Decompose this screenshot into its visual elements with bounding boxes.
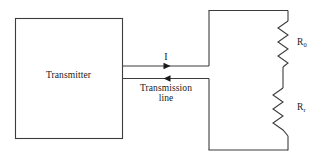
current-arrow-top-icon — [164, 63, 171, 69]
current-arrow-bottom-icon — [164, 75, 171, 81]
transmission-line-label-line2: line — [112, 94, 220, 104]
transmitter-label: Transmitter — [0, 71, 137, 81]
transmission-line-label-line1: Transmission — [140, 83, 192, 93]
resistor-r0-label: R0 — [297, 38, 307, 48]
resistor-rr-label: Rr — [297, 103, 306, 113]
current-label: I — [140, 52, 192, 63]
resistor-r0-label-subscript: 0 — [303, 41, 306, 48]
resistor-r0-zigzag-icon — [278, 21, 288, 67]
resistor-rr-label-subscript: r — [303, 106, 305, 113]
resistor-rr-zigzag-icon — [273, 88, 288, 136]
circuit-diagram: Transmitter I Transmissionline R0 Rr — [0, 0, 328, 160]
transmission-line-label: Transmissionline — [112, 84, 220, 104]
